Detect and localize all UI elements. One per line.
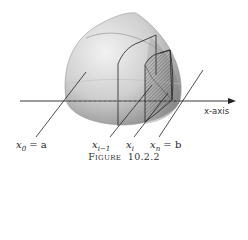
figure-caption: Figure 10.2.2 — [0, 151, 248, 162]
x-axis-arrowhead — [228, 98, 236, 104]
x-axis-label: x-axis — [204, 106, 229, 116]
